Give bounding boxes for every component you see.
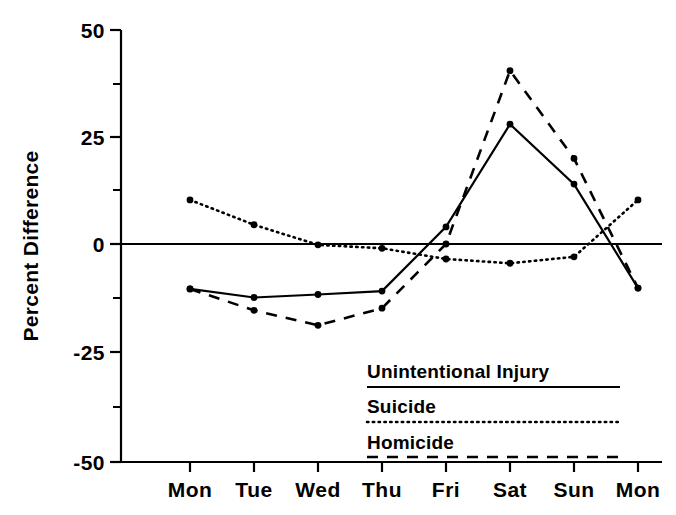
data-point (507, 121, 514, 128)
legend-label: Suicide (367, 396, 436, 417)
legend-label: Homicide (367, 432, 454, 453)
x-tick-label-wed: Wed (295, 478, 340, 501)
data-point (379, 305, 386, 312)
data-point (379, 288, 386, 295)
legend-item-unintentional-injury[interactable]: Unintentional Injury (367, 361, 620, 387)
x-tick-label-fri: Fri (432, 478, 460, 501)
legend-item-suicide[interactable]: Suicide (367, 396, 620, 422)
x-tick-label-mon-2: Mon (616, 478, 661, 501)
legend-label: Unintentional Injury (367, 361, 550, 382)
x-tick-label-tue: Tue (235, 478, 272, 501)
legend-item-homicide[interactable]: Homicide (367, 432, 620, 457)
line-chart: Percent Difference 50 25 0 -25 -50 (0, 0, 676, 515)
series-path (190, 200, 638, 263)
x-tick-label-sat: Sat (493, 478, 527, 501)
y-tick-label: 25 (81, 126, 105, 149)
series-homicide (187, 67, 642, 328)
x-tick-label-thu: Thu (362, 478, 402, 501)
series-path (190, 124, 638, 297)
data-point (507, 260, 514, 267)
series-unintentional-injury (187, 121, 642, 301)
data-point (571, 155, 578, 162)
chart-container: Percent Difference 50 25 0 -25 -50 (0, 0, 676, 515)
y-axis-tick-labels: 50 25 0 -25 -50 (73, 19, 105, 474)
x-tick-label-mon-1: Mon (168, 478, 213, 501)
data-point (443, 241, 450, 248)
data-point (635, 197, 642, 204)
series-layer (187, 67, 642, 328)
data-point (635, 285, 642, 292)
series-suicide (187, 197, 642, 267)
data-point (251, 307, 258, 314)
data-point (251, 294, 258, 301)
data-point (315, 322, 322, 329)
y-tick-label: -50 (73, 451, 105, 474)
chart-legend: Unintentional InjurySuicideHomicide (367, 361, 620, 457)
data-point (443, 223, 450, 230)
x-axis-tick-labels: Mon Tue Wed Thu Fri Sat Sun Mon (168, 478, 661, 501)
data-point (251, 221, 258, 228)
data-point (443, 256, 450, 263)
y-axis-title: Percent Difference (19, 151, 42, 342)
data-point (315, 241, 322, 248)
data-point (571, 181, 578, 188)
data-point (315, 291, 322, 298)
y-tick-label: 0 (93, 233, 105, 256)
data-point (187, 286, 194, 293)
x-tick-label-sun: Sun (553, 478, 594, 501)
x-axis-ticks (190, 462, 638, 472)
data-point (187, 197, 194, 204)
data-point (507, 67, 514, 74)
data-point (571, 253, 578, 260)
y-tick-label: 50 (81, 19, 105, 42)
data-point (379, 245, 386, 252)
y-tick-label: -25 (73, 341, 105, 364)
series-path (190, 71, 638, 326)
y-axis-ticks (110, 30, 121, 462)
